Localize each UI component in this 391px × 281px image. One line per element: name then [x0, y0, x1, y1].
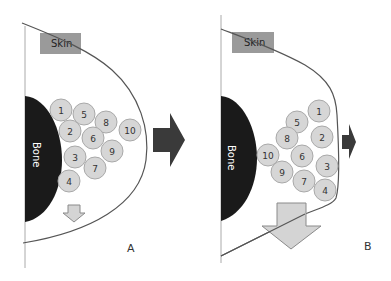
panel-b-down-arrow-icon: [262, 203, 321, 249]
panel-b-circle-4-label: 4: [322, 186, 328, 196]
panel-b-circle-8-label: 8: [284, 134, 290, 144]
panel-a-circles: 1 5 8 10 2 6 9 3 7 4: [50, 99, 141, 192]
panel-b-circle-1-label: 1: [316, 107, 322, 117]
panel-a-circle-1-label: 1: [58, 106, 64, 116]
panel-a-bone-label: Bone: [31, 142, 42, 167]
panel-a-down-arrow-icon: [63, 205, 85, 222]
panel-b-label: B: [364, 240, 372, 253]
panel-a-outward-arrow-icon: [153, 113, 185, 167]
panel-b-circle-7-label: 7: [301, 177, 307, 187]
panel-a-circle-4-label: 4: [66, 177, 72, 187]
panel-a-circle-6-label: 6: [90, 134, 96, 144]
panel-b: Bone Skin 1 5 2 8 6 10 3 9 7 4: [221, 15, 372, 263]
panel-b-outward-arrow-icon: [342, 124, 356, 159]
panel-a-circle-2-label: 2: [67, 127, 73, 137]
diagram-canvas: Bone Skin 1 5 8 10 2 6 9 3 7 4: [0, 0, 391, 281]
panel-b-bone-label: Bone: [226, 145, 237, 170]
panel-a-circle-8-label: 8: [103, 118, 109, 128]
panel-b-circle-6-label: 6: [299, 152, 305, 162]
panel-a-circle-9-label: 9: [109, 147, 115, 157]
panel-a-label: A: [127, 242, 135, 255]
panel-a-circle-5-label: 5: [81, 110, 87, 120]
panel-a-circle-7-label: 7: [92, 164, 98, 174]
panel-a-circle-3-label: 3: [72, 153, 78, 163]
panel-b-circle-2-label: 2: [319, 133, 325, 143]
panel-a: Bone Skin 1 5 8 10 2 6 9 3 7 4: [22, 23, 185, 268]
panel-b-circle-5-label: 5: [294, 118, 300, 128]
panel-b-circle-9-label: 9: [279, 168, 285, 178]
panel-b-circle-10-label: 10: [262, 151, 274, 161]
panel-b-circle-3-label: 3: [324, 162, 330, 172]
panel-b-circles: 1 5 2 8 6 10 3 9 7 4: [257, 100, 338, 201]
panel-a-circle-10-label: 10: [124, 126, 136, 136]
